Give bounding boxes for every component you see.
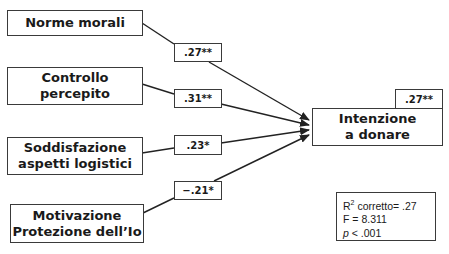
predictor-controllo-percepito: Controllo percepito bbox=[7, 67, 143, 105]
f-line: F = 8.311 bbox=[343, 213, 387, 227]
predictor-label-line1: Motivazione bbox=[33, 208, 122, 224]
outcome-r2-badge: .27** bbox=[395, 89, 443, 109]
coefficient-controllo-percepito: .31** bbox=[174, 89, 222, 108]
predictor-motivazione-protezione: Motivazione Protezione dell’Io bbox=[10, 204, 144, 243]
outcome-label-line1: Intenzione bbox=[339, 111, 416, 127]
predictor-label-line2: aspetti logistici bbox=[18, 156, 132, 172]
predictor-label-line2: Protezione dell’Io bbox=[12, 224, 141, 240]
predictor-label: Norme morali bbox=[25, 15, 125, 31]
outcome-intenzione-a-donare: Intenzione a donare bbox=[312, 108, 443, 146]
p-line: p < .001 bbox=[343, 227, 381, 241]
predictor-label-line1: Soddisfazione bbox=[24, 140, 127, 156]
r2-line: R2 corretto= .27 bbox=[343, 196, 417, 213]
outcome-label-line2: a donare bbox=[345, 127, 410, 143]
predictor-label-line2: percepito bbox=[40, 86, 110, 102]
coefficient-norme-morali: .27** bbox=[174, 43, 222, 62]
predictor-soddisfazione-aspetti-logistici: Soddisfazione aspetti logistici bbox=[7, 137, 143, 175]
model-stats-box: R2 corretto= .27 F = 8.311 p < .001 bbox=[336, 192, 436, 241]
coefficient-soddisfazione: .23* bbox=[174, 135, 222, 155]
coefficient-motivazione: −.21* bbox=[174, 181, 222, 200]
predictor-label-line1: Controllo bbox=[41, 70, 108, 86]
predictor-norme-morali: Norme morali bbox=[7, 10, 143, 36]
